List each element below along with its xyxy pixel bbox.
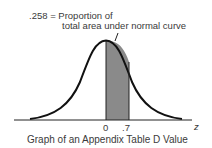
shaded-area (106, 41, 129, 121)
axis-label-z: z (194, 122, 199, 132)
tick-label-point7: .7 (122, 123, 130, 133)
annotation-leader (115, 33, 118, 41)
tick-label-zero: 0 (103, 123, 108, 133)
annotation-line-2: total area under normal curve (62, 21, 186, 31)
caption: Graph of an Appendix Table D Value (27, 135, 188, 145)
